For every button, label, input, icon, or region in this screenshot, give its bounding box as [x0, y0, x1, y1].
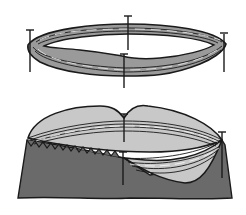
illustration	[0, 0, 246, 215]
coil-ring-top	[28, 24, 226, 76]
